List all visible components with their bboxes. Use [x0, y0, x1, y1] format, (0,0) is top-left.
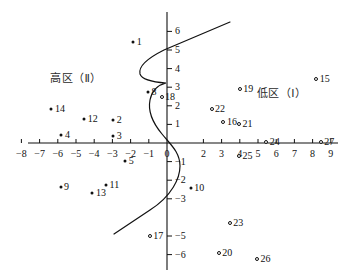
data-point-label: 4	[65, 130, 70, 140]
x-tick-label: 8	[310, 149, 315, 159]
y-tick-label: 1	[175, 119, 180, 129]
y-tick-label: −1	[175, 157, 186, 167]
data-point-marker[interactable]	[132, 40, 135, 43]
data-point-marker[interactable]	[228, 221, 232, 225]
data-point-label: 17	[153, 231, 163, 241]
x-tick-label: −1	[143, 149, 154, 159]
data-point-label: 21	[242, 119, 252, 129]
data-point-marker[interactable]	[237, 154, 241, 158]
zone-label-high: 高区（Ⅱ）	[50, 73, 102, 85]
data-point-marker[interactable]	[210, 107, 214, 111]
y-tick-label: 3	[175, 82, 180, 92]
data-point-label: 11	[110, 180, 120, 190]
y-tick-label: 4	[175, 64, 180, 74]
data-point-marker[interactable]	[112, 134, 115, 137]
data-point-marker[interactable]	[50, 107, 53, 110]
data-point-marker[interactable]	[221, 120, 225, 124]
y-tick-label: −5	[175, 231, 186, 241]
data-point-marker[interactable]	[237, 122, 241, 126]
x-tick-label: 7	[292, 149, 297, 159]
data-point-label: 23	[233, 218, 243, 228]
data-point-label: 12	[88, 114, 98, 124]
x-tick-label: 5	[256, 149, 261, 159]
data-point-marker[interactable]	[105, 183, 108, 186]
data-point-label: 26	[261, 254, 271, 264]
data-point-label: 24	[270, 137, 280, 147]
x-tick-label: 6	[274, 149, 279, 159]
data-point-label: 27	[324, 137, 334, 147]
data-point-marker[interactable]	[264, 140, 268, 144]
data-point-label: 14	[55, 104, 65, 114]
x-tick-label: 2	[201, 149, 206, 159]
x-tick-label: −3	[107, 149, 118, 159]
dividing-curve	[114, 22, 230, 234]
data-point-marker[interactable]	[217, 251, 221, 255]
scatter-plot-canvas	[0, 0, 345, 277]
data-point-marker[interactable]	[238, 87, 242, 91]
data-point-marker[interactable]	[160, 95, 164, 99]
x-tick-label: 3	[219, 149, 224, 159]
data-point-marker[interactable]	[124, 159, 127, 162]
data-point-marker[interactable]	[83, 117, 86, 120]
data-point-label: 5	[129, 156, 134, 166]
data-point-label: 8	[151, 87, 156, 97]
data-point-label: 15	[320, 74, 330, 84]
data-point-marker[interactable]	[319, 140, 323, 144]
data-point-marker[interactable]	[59, 185, 62, 188]
x-tick-label: −4	[89, 149, 100, 159]
y-tick-label: 2	[175, 101, 180, 111]
y-tick-label: 5	[175, 45, 180, 55]
x-tick-label: 0	[165, 149, 170, 159]
x-tick-label: −7	[34, 149, 45, 159]
data-point-marker[interactable]	[60, 133, 63, 136]
data-point-marker[interactable]	[314, 77, 318, 81]
x-tick-label: −8	[16, 149, 27, 159]
data-point-marker[interactable]	[91, 192, 94, 195]
data-point-marker[interactable]	[189, 186, 192, 189]
data-point-marker[interactable]	[112, 118, 115, 121]
data-point-label: 19	[243, 84, 253, 94]
y-tick-label: −3	[175, 194, 186, 204]
data-point-label: 3	[117, 131, 122, 141]
y-tick-label: 6	[175, 26, 180, 36]
y-tick-label: −2	[175, 175, 186, 185]
y-tick-label: −6	[175, 250, 186, 260]
data-point-label: 2	[117, 115, 122, 125]
data-point-label: 16	[227, 117, 237, 127]
x-tick-label: 9	[328, 149, 333, 159]
data-point-label: 18	[165, 92, 175, 102]
data-point-label: 10	[194, 183, 204, 193]
data-point-marker[interactable]	[255, 257, 259, 261]
data-point-marker[interactable]	[146, 90, 149, 93]
x-tick-label: −5	[71, 149, 82, 159]
x-tick-label: −6	[52, 149, 63, 159]
data-point-label: 25	[242, 151, 252, 161]
data-point-label: 20	[222, 248, 232, 258]
data-point-label: 1	[137, 37, 142, 47]
data-point-label: 13	[96, 188, 106, 198]
data-point-marker[interactable]	[148, 234, 152, 238]
data-point-label: 9	[64, 182, 69, 192]
zone-label-low: 低区（Ⅰ）	[257, 88, 307, 100]
data-point-label: 22	[215, 104, 225, 114]
